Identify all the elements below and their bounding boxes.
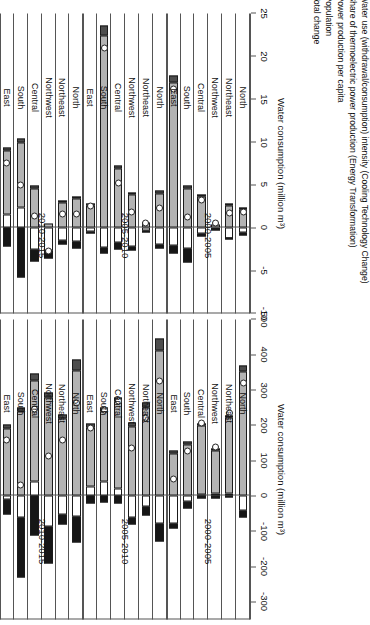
total-change-marker xyxy=(170,475,177,482)
bar-segment xyxy=(155,338,164,350)
bar-segment xyxy=(183,188,192,227)
total-change-marker xyxy=(115,397,122,404)
bar-segment xyxy=(155,350,164,495)
bar-segment xyxy=(225,237,234,239)
axis-tick-label: -5 xyxy=(259,266,270,274)
bar-segment xyxy=(128,246,137,250)
total-change-marker xyxy=(45,452,52,459)
legend: Water use (withdrawal/consumption) inten… xyxy=(300,0,370,325)
bar-segment xyxy=(72,227,81,241)
total-change-marker xyxy=(212,219,219,226)
bar-segment xyxy=(225,417,234,493)
chart-panel-top: 5004003002001000-100-200-300Water consum… xyxy=(0,319,356,619)
bar-segment xyxy=(100,481,109,495)
bar-segment xyxy=(239,371,248,495)
bar-segment xyxy=(169,495,178,523)
axis-tick-label: 25 xyxy=(259,8,270,19)
axis-tick xyxy=(251,270,256,271)
axis-tick-label: 20 xyxy=(259,51,270,62)
legend-item: Population xyxy=(324,0,334,36)
bar-segment xyxy=(86,231,95,234)
bar-segment xyxy=(183,441,192,444)
bar-segment xyxy=(197,425,206,494)
bar-segment xyxy=(114,496,123,504)
bar-segment xyxy=(30,188,39,227)
bar-segment xyxy=(17,207,26,228)
axis-tick xyxy=(251,354,256,355)
bar-segment xyxy=(44,392,53,398)
bar-segment xyxy=(72,370,81,496)
bar-segment xyxy=(142,402,151,407)
bar-segment xyxy=(3,227,12,246)
axis-tick-label: 300 xyxy=(259,382,270,398)
bar-segment xyxy=(86,427,95,486)
total-change-marker xyxy=(170,85,177,92)
axis-tick xyxy=(251,601,256,602)
axis-tick-label: -100 xyxy=(259,521,270,540)
bar-segment xyxy=(128,227,137,246)
total-change-marker xyxy=(73,399,80,406)
total-change-marker xyxy=(115,179,122,186)
bar-segment xyxy=(197,495,206,498)
bar-segment xyxy=(3,214,12,228)
bar-segment xyxy=(44,227,53,249)
bar-segment xyxy=(58,418,67,496)
bar-segment xyxy=(197,233,206,236)
total-change-marker xyxy=(59,210,66,217)
bar-segment xyxy=(30,373,39,380)
axis-tick xyxy=(251,389,256,390)
bar-segment xyxy=(155,190,164,193)
axis-tick xyxy=(251,530,256,531)
axis-tick xyxy=(251,495,256,496)
total-change-marker xyxy=(184,213,191,220)
bar-segment xyxy=(114,165,123,168)
bar-segment xyxy=(17,407,26,412)
total-change-marker xyxy=(156,204,163,211)
bar-segment xyxy=(86,486,95,495)
bar-segment xyxy=(100,35,109,227)
axis-tick xyxy=(251,98,256,99)
bar-segment xyxy=(72,241,81,248)
total-change-marker xyxy=(31,405,38,412)
bar-segment xyxy=(100,247,109,253)
bar-segment xyxy=(211,450,220,494)
bar-segment xyxy=(155,495,164,523)
total-change-marker xyxy=(128,444,135,451)
bar-segment xyxy=(44,526,53,563)
value-axis-line xyxy=(250,319,251,619)
legend-item: Total change xyxy=(312,0,322,44)
bar-segment xyxy=(169,227,178,245)
total-change-marker xyxy=(198,196,205,203)
legend-label: Population xyxy=(324,0,334,36)
bar-segment xyxy=(225,203,234,205)
axis-tick-label: -300 xyxy=(259,592,270,611)
bar-segment xyxy=(183,227,192,248)
bar-segment xyxy=(30,481,39,496)
bar-segment xyxy=(128,192,137,194)
bar-segment xyxy=(58,200,67,202)
bar-segment xyxy=(211,228,220,230)
axis-tick-label: 400 xyxy=(259,346,270,362)
value-axis-line xyxy=(250,13,251,313)
bar-segment xyxy=(72,196,81,198)
bar-segment xyxy=(58,414,67,418)
bar-segment xyxy=(58,227,67,240)
bar-segment xyxy=(155,523,164,541)
legend-item: Water use (withdrawal/consumption) inten… xyxy=(360,0,370,283)
axis-tick xyxy=(251,227,256,228)
bar-segment xyxy=(3,147,12,150)
bar-segment xyxy=(239,495,248,510)
bar-segment xyxy=(17,227,26,277)
bar-segment xyxy=(3,495,12,499)
bar-segment xyxy=(114,488,123,496)
total-change-marker xyxy=(31,212,38,219)
total-change-marker xyxy=(226,209,233,216)
axis-tick xyxy=(251,566,256,567)
bar-segment xyxy=(155,227,164,243)
axis-tick-label: 100 xyxy=(259,452,270,468)
bar-segment xyxy=(100,495,109,501)
bar-segment xyxy=(3,499,12,514)
axis-title: Water consumption (million m³) xyxy=(276,97,287,228)
